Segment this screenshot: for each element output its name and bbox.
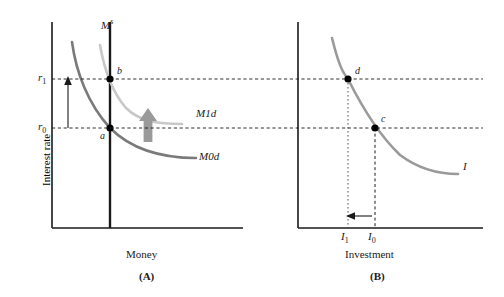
- md1-base: M: [196, 107, 205, 119]
- money-supply-curve-label: Ms: [101, 18, 113, 31]
- money-supply-base: M: [101, 19, 110, 31]
- point-b-label: b: [117, 66, 122, 76]
- money-demand-curve-shifted: [100, 45, 182, 124]
- md0-base: M: [199, 150, 208, 162]
- money-supply-sup: s: [110, 17, 113, 26]
- x-tick-i1: I1: [341, 231, 349, 245]
- x-tick-i0: I0: [368, 231, 376, 245]
- panel-a-y-axis-label: Interest rate: [40, 134, 52, 186]
- panel-a-label: (A): [139, 271, 154, 282]
- money-demand-shifted-label: M1d: [196, 108, 216, 119]
- x-tick-i1-sub: 1: [345, 236, 349, 245]
- panel-b-x-axis-label: Investment: [345, 249, 394, 260]
- panel-a-group: [52, 22, 243, 228]
- point-a-label: a: [100, 131, 105, 141]
- y-tick-r1-sub: 1: [42, 77, 46, 86]
- point-d-label: d: [355, 66, 360, 76]
- y-tick-r0: r0: [38, 121, 46, 135]
- money-demand-shift-arrow: [139, 108, 157, 142]
- md1-sup: d: [211, 107, 217, 119]
- point-c-label: c: [381, 114, 385, 124]
- investment-fall-arrow: [346, 212, 372, 220]
- panel-b-group: [298, 22, 483, 228]
- panel-a-x-axis-label: Money: [126, 249, 157, 260]
- investment-curve: [332, 38, 458, 174]
- y-tick-r0-sub: 0: [42, 126, 46, 135]
- money-demand-initial-label: M0d: [199, 151, 219, 162]
- md0-sup: d: [214, 150, 220, 162]
- panel-b-label: (B): [370, 271, 385, 282]
- figure-canvas: [0, 0, 504, 297]
- money-demand-curve-initial: [72, 42, 196, 158]
- investment-curve-label: I: [463, 161, 467, 172]
- interest-rate-rise-arrow: [64, 76, 72, 128]
- x-tick-i0-sub: 0: [372, 236, 376, 245]
- economics-figure: Interest rate r1 r0 Ms M1d M0d b a Money…: [0, 0, 504, 297]
- y-tick-r1: r1: [38, 72, 46, 86]
